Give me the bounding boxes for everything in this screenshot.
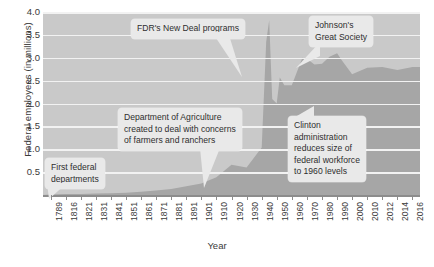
annotation-line: of farmers and ranchers [124, 135, 236, 147]
x-tick-mark [96, 195, 97, 200]
x-axis-label: Year [0, 240, 434, 251]
y-tick-label: 2.0 [10, 99, 40, 109]
annotation-line: to 1960 levels [294, 166, 360, 178]
x-tick-mark [216, 195, 217, 200]
y-tick-label: 4.0 [10, 7, 40, 17]
x-tick-mark [397, 195, 398, 200]
x-tick-mark [156, 195, 157, 200]
x-tick-label: 1816 [70, 202, 79, 221]
x-tick-label: 1821 [85, 202, 94, 221]
x-tick-mark [232, 195, 233, 200]
x-tick-label: 1980 [326, 202, 335, 221]
x-tick-label: 1851 [130, 202, 139, 221]
x-tick-mark [262, 195, 263, 200]
x-tick-mark [337, 195, 338, 200]
annotation-pointer-clinton-administration [286, 102, 314, 120]
x-tick-label: 1891 [190, 202, 199, 221]
annotation-line: Great Society [315, 32, 367, 44]
x-tick-label: 1841 [115, 202, 124, 221]
x-tick-label: 1940 [266, 202, 275, 221]
y-tick-label: 1.5 [10, 121, 40, 131]
annotation-pointer-department-of-agriculture [200, 148, 230, 188]
annotation-pointer-johnsons-great-society [296, 42, 320, 70]
x-tick-label: 1930 [251, 202, 260, 221]
x-tick-mark [412, 195, 413, 200]
annotation-line: administration [294, 132, 360, 144]
x-tick-mark [81, 195, 82, 200]
x-tick-mark [247, 195, 248, 200]
x-tick-label: 1990 [341, 202, 350, 221]
x-tick-mark [322, 195, 323, 200]
annotation-line: federal workforce [294, 155, 360, 167]
x-tick-mark [277, 195, 278, 200]
x-tick-label: 1950 [281, 202, 290, 221]
x-tick-label: 2016 [416, 202, 425, 221]
x-tick-mark [292, 195, 293, 200]
x-tick-label: 1970 [311, 202, 320, 221]
annotation-line: reduces size of [294, 143, 360, 155]
x-tick-mark [382, 195, 383, 200]
x-tick-mark [51, 195, 52, 200]
y-tick-label: 3.5 [10, 30, 40, 40]
x-tick-mark [352, 195, 353, 200]
x-tick-label: 1831 [100, 202, 109, 221]
gridline [43, 81, 420, 83]
x-tick-label: 1881 [175, 202, 184, 221]
x-tick-label: 1920 [236, 202, 245, 221]
annotation-line: Department of Agriculture [124, 112, 236, 124]
annotation-department-of-agriculture: Department of Agriculture created to dea… [118, 108, 242, 151]
x-tick-label: 2014 [401, 202, 410, 221]
gridline [43, 104, 420, 106]
chart-figure: Federal employees (in millions) 4.03.53.… [0, 0, 434, 267]
annotation-pointer-first-federal-departments [45, 183, 71, 199]
y-tick-label: 3.0 [10, 53, 40, 63]
figure-caption [4, 259, 204, 267]
x-tick-label: 1960 [296, 202, 305, 221]
x-tick-mark [126, 195, 127, 200]
y-tick-label: 0.5 [10, 167, 40, 177]
annotation-line: Johnson's [315, 20, 367, 32]
x-tick-mark [201, 195, 202, 200]
annotation-pointer-fdr-new-deal [212, 32, 248, 77]
x-tick-label: 2010 [371, 202, 380, 221]
gridline [43, 12, 420, 14]
x-tick-label: 1901 [205, 202, 214, 221]
x-tick-mark [141, 195, 142, 200]
x-tick-mark [186, 195, 187, 200]
annotation-line: created to deal with concerns [124, 124, 236, 136]
x-tick-label: 2012 [386, 202, 395, 221]
x-tick-label: 1910 [220, 202, 229, 221]
x-tick-mark [367, 195, 368, 200]
x-tick-mark [307, 195, 308, 200]
annotation-line: Clinton [294, 120, 360, 132]
x-tick-mark [111, 195, 112, 200]
annotation-clinton-administration: Clinton administration reduces size of f… [288, 116, 366, 182]
x-tick-label: 1871 [160, 202, 169, 221]
x-tick-label: 2000 [356, 202, 365, 221]
x-tick-mark [171, 195, 172, 200]
x-tick-label: 1861 [145, 202, 154, 221]
x-tick-mark [66, 195, 67, 200]
y-tick-label: 1.0 [10, 144, 40, 154]
y-axis-ticks: 4.03.53.02.52.01.51.00.5 [8, 0, 40, 267]
x-tick-label: 1789 [55, 202, 64, 221]
y-tick-label: 2.5 [10, 76, 40, 86]
annotation-line: First federal [51, 162, 99, 174]
